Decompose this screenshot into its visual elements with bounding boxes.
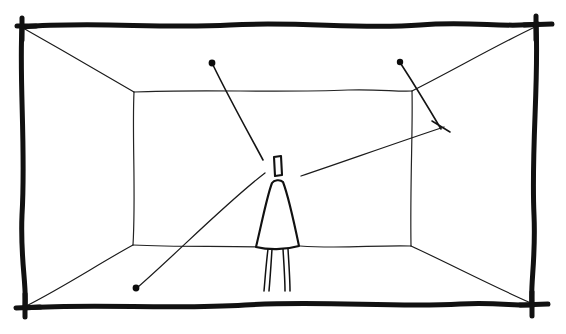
perspective-room-sketch bbox=[0, 0, 566, 334]
paper-background bbox=[0, 0, 566, 334]
endpoint-dot-lower-left bbox=[133, 285, 140, 292]
endpoint-dot-upper-right bbox=[397, 59, 403, 65]
figure-head-rectangle bbox=[274, 156, 282, 176]
sketch-canvas bbox=[0, 0, 566, 334]
frame-corner-tick-bottom-left bbox=[16, 307, 40, 308]
endpoint-dot-upper-left bbox=[209, 60, 216, 67]
